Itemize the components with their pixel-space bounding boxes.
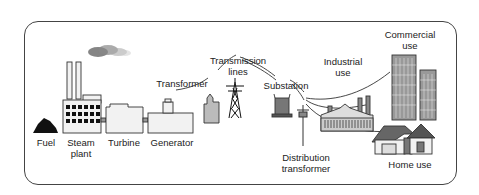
label-generator: Generator [146,137,198,148]
generator-icon [148,99,193,133]
steam-plant-icon [63,62,106,133]
house-icon [372,124,435,154]
substation-icon [272,94,292,117]
label-distribution-transformer: Distributiontransformer [276,152,336,174]
distribution-transformer-icon [297,105,309,146]
transmission-tower-icon [226,78,244,118]
label-home-use: Home use [382,159,438,170]
label-commercial-use: Commercialuse [380,29,440,51]
label-fuel: Fuel [30,137,62,148]
industrial-building-icon [321,96,373,131]
fuel-pile-icon [33,118,58,133]
transformer-icon [204,94,219,123]
commercial-buildings-icon [392,55,436,120]
smoke-icon [88,45,131,57]
turbine-icon [106,104,148,133]
label-turbine: Turbine [104,137,144,148]
label-transformer: Transformer [154,78,210,89]
label-transmission-lines: Transmissionlines [206,55,270,77]
label-industrial-use: Industrialuse [318,56,368,78]
label-substation: Substation [258,80,314,91]
label-steam-plant: Steamplant [62,137,100,159]
